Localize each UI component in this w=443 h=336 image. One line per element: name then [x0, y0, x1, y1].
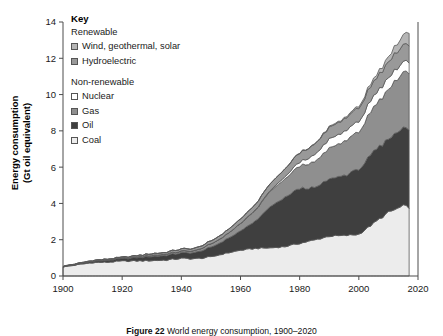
figure-label: Figure 22 — [126, 326, 164, 336]
legend-item: Hydroelectric — [71, 55, 271, 68]
legend-item: Wind, geothermal, solar — [71, 40, 271, 53]
x-tick-label: 1940 — [171, 283, 192, 294]
legend-item-label: Gas — [82, 105, 99, 118]
caption-text: World energy consumption, 1900–2020 — [167, 326, 317, 336]
legend-item: Oil — [71, 119, 271, 132]
y-axis-title-line1: Energy consumption — [9, 96, 20, 191]
x-tick-label: 2020 — [407, 283, 428, 294]
x-tick-label: 1960 — [230, 283, 251, 294]
y-tick-label: 4 — [51, 198, 56, 209]
legend-swatch-icon — [71, 93, 78, 100]
legend-swatch-icon — [71, 137, 78, 144]
chart-legend: Key RenewableWind, geothermal, solarHydr… — [71, 12, 271, 148]
x-tick-label: 1920 — [112, 283, 133, 294]
legend-swatch-icon — [71, 43, 78, 50]
y-tick-label: 14 — [45, 16, 56, 27]
legend-swatch-icon — [71, 108, 78, 115]
legend-item: Gas — [71, 105, 271, 118]
legend-group-title-1: Renewable — [71, 26, 271, 39]
legend-item-label: Nuclear — [82, 90, 114, 103]
legend-item: Nuclear — [71, 90, 271, 103]
y-tick-label: 12 — [45, 53, 56, 64]
y-tick-label: 8 — [51, 125, 56, 136]
legend-spacer — [71, 69, 271, 76]
y-axis-title-line2: (Gt oil equivalent) — [21, 103, 32, 183]
legend-swatch-icon — [71, 122, 78, 129]
legend-item-label: Wind, geothermal, solar — [82, 40, 180, 53]
legend-groups: RenewableWind, geothermal, solarHydroele… — [71, 26, 271, 147]
x-tick-label: 2000 — [348, 283, 369, 294]
legend-item-label: Oil — [82, 119, 93, 132]
legend-item-label: Coal — [82, 134, 101, 147]
y-tick-label: 2 — [51, 234, 56, 245]
y-tick-label: 6 — [51, 162, 56, 173]
legend-heading: Key — [71, 12, 271, 25]
legend-swatch-icon — [71, 58, 78, 65]
legend-item-label: Hydroelectric — [82, 55, 136, 68]
x-tick-label: 1900 — [52, 283, 73, 294]
figure-caption: Figure 22 World energy consumption, 1900… — [0, 326, 443, 336]
y-tick-label: 0 — [51, 270, 56, 281]
legend-item: Coal — [71, 134, 271, 147]
y-tick-label: 10 — [45, 89, 56, 100]
x-tick-label: 1980 — [289, 283, 310, 294]
legend-group-title-2: Non-renewable — [71, 76, 271, 89]
